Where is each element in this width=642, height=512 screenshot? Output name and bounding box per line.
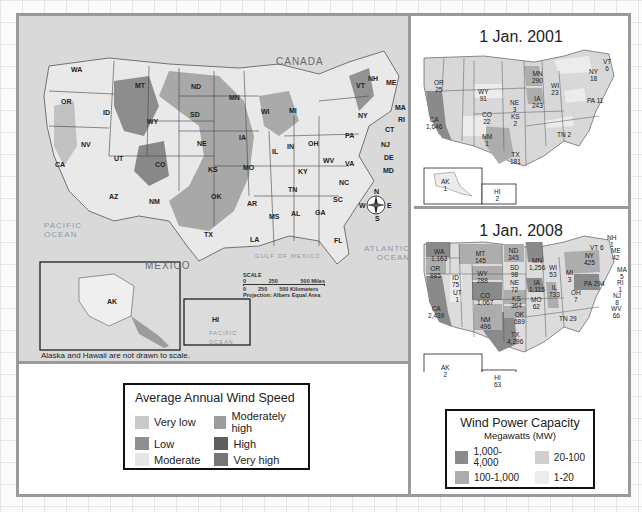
state-label: GA (315, 209, 326, 217)
state-label: NV (81, 141, 91, 149)
value-2008-wi: WI53 (549, 264, 557, 278)
value-2001-ks: KS2 (511, 113, 520, 127)
wind-speed-legend-panel: Average Annual Wind Speed Very low Moder… (19, 364, 411, 494)
state-label: WY (147, 118, 158, 126)
value-2001-pa: PA 11 (587, 97, 603, 104)
swatch-very-low (135, 416, 149, 429)
legend-item-1-20: 1-20 (535, 471, 585, 484)
value-2008-ok: OK689 (514, 311, 525, 325)
value-2001-or: OR25 (434, 79, 444, 93)
value-2008-pa: PA 294 (584, 280, 605, 287)
state-label: MO (243, 164, 254, 172)
state-label: ND (191, 83, 201, 91)
legend-label: 100-1,000 (474, 472, 519, 483)
swatch-very-high (214, 453, 228, 466)
value-2008-il: IL733 (549, 284, 560, 298)
label-atlantic-ocean: ATLANTIC OCEAN (364, 244, 410, 262)
state-label: RI (398, 116, 405, 124)
compass-south: S (375, 215, 380, 223)
value-2008-nh: NH1 (607, 234, 616, 248)
swatch-20-100 (535, 451, 549, 464)
state-label: IN (287, 143, 294, 151)
value-2008-wy: WY288 (477, 270, 488, 284)
value-2008-mn: MN1,256 (529, 257, 545, 271)
value-2008-nj: NJ8 (613, 292, 621, 306)
state-label: ME (386, 79, 397, 87)
state-label: OR (61, 98, 72, 106)
value-2001-ak: AK1 (441, 178, 450, 192)
value-2008-me: ME42 (611, 247, 621, 261)
compass-east: E (387, 202, 392, 210)
state-label: WA (71, 66, 82, 74)
state-label: KY (298, 168, 308, 176)
state-label: DE (384, 154, 394, 162)
legend-item-moderately-high: Moderately high (214, 410, 298, 434)
legend-item-low: Low (135, 437, 200, 450)
value-2001-ny: NY18 (589, 68, 598, 82)
capacity-map-2001: 1 Jan. 2001 OR25 CA1,646 WY91 CO2 (414, 16, 628, 209)
value-2008-vt: VT 6 (590, 244, 604, 251)
state-label: MA (395, 104, 406, 112)
value-2008-sd: SD98 (510, 264, 519, 278)
swatch-100-1000 (455, 471, 469, 484)
value-2008-id: ID75 (452, 274, 459, 288)
figure-frame: CANADA MEXICO PACIFIC OCEAN ATLANTIC OCE… (16, 13, 631, 497)
value-2008-ak: AK2 (441, 364, 450, 378)
value-2001-mn: MN290 (532, 70, 543, 84)
value-2008-mi: MI3 (566, 269, 573, 283)
legend-item-high: High (214, 437, 298, 450)
state-label: AR (247, 200, 257, 208)
state-label: OH (308, 140, 319, 148)
state-label: NY (358, 112, 368, 120)
value-2008-tx: TX4,296 (507, 331, 523, 345)
swatch-high (214, 437, 228, 450)
inset-alaska-label: AK (107, 298, 117, 306)
state-label: TN (288, 186, 297, 194)
label-mexico: MEXICO (145, 260, 190, 271)
state-label: LA (250, 236, 259, 244)
legend-label: Low (154, 438, 174, 450)
state-label: SC (333, 196, 343, 204)
value-2008-ca: CA2,439 (428, 305, 444, 319)
value-2008-ia: IA1,115 (529, 279, 545, 293)
value-2008-ne: NE72 (510, 279, 519, 293)
state-label: CO (155, 161, 166, 169)
state-label: VA (345, 160, 354, 168)
value-2008-hi: HI63 (494, 374, 501, 388)
legend-item-moderate: Moderate (135, 453, 200, 466)
state-label: WV (323, 157, 334, 165)
swatch-moderate (135, 453, 149, 466)
state-label: CT (385, 126, 394, 134)
value-2001-wi: WI23 (551, 82, 559, 96)
value-2008-ks: KS364 (511, 295, 522, 309)
state-label: MI (289, 107, 297, 115)
state-label: MD (383, 167, 394, 175)
scale-mile-250: 250 (269, 278, 278, 284)
state-label: VT (356, 82, 365, 90)
state-label: MT (135, 82, 145, 90)
value-2001-tn: TN 2 (557, 131, 571, 138)
state-label: KS (208, 166, 218, 174)
value-2001-wy: WY91 (478, 88, 488, 102)
state-label: MN (229, 94, 240, 102)
state-label: AZ (109, 193, 118, 201)
state-label: OK (211, 193, 222, 201)
legend-item-very-high: Very high (214, 453, 298, 466)
value-2008-nd: ND345 (508, 247, 519, 261)
value-2008-wv: WV66 (611, 305, 621, 319)
value-2008-mt: MT145 (475, 250, 486, 264)
value-2008-ny: NY425 (584, 252, 595, 266)
scale-note: Alaska and Hawaii are not drawn to scale… (41, 351, 190, 360)
state-label: MS (269, 213, 280, 221)
wind-speed-legend-title: Average Annual Wind Speed (135, 391, 298, 405)
value-2008-co: CO1,067 (477, 292, 493, 306)
value-2008-ut: UT1 (453, 289, 462, 303)
capacity-map-2008: 1 Jan. 2008 (414, 212, 628, 494)
swatch-1-20 (535, 471, 549, 484)
map-scale: SCALE 0 250 500 Miles 0 250 500 Kilomete… (243, 272, 343, 298)
legend-label: 1,000-4,000 (473, 446, 524, 468)
capacity-legend-title: Wind Power Capacity (455, 416, 585, 430)
value-2001-tx: TX181 (510, 151, 521, 165)
value-2008-ri: RI1 (617, 279, 624, 293)
state-label: NH (368, 75, 378, 83)
